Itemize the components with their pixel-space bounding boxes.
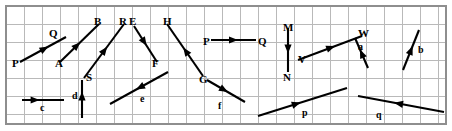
vector-diagram-svg [0, 0, 452, 131]
vector-label-q-tail: q [376, 110, 382, 120]
vector-GH [167, 24, 203, 76]
vector-label-AB-tail: A [55, 58, 63, 69]
vector-arrowhead [284, 45, 291, 54]
vector-label-EF-head: F [152, 58, 159, 69]
vector-label-MN-head: N [283, 72, 291, 83]
vector-arrowhead [229, 36, 238, 43]
vector-f [207, 80, 245, 102]
vector-arrowhead [39, 47, 49, 54]
vector-label-MN-tail: M [283, 22, 293, 33]
vector-group [20, 24, 444, 118]
vector-label-SR-tail: S [86, 72, 92, 83]
vector-arrowhead [218, 84, 228, 92]
vector-label-GH-head: H [163, 16, 172, 27]
vector-arrowhead [183, 47, 191, 56]
vector-label-p-tail: p [302, 108, 308, 118]
vector-d [78, 80, 85, 118]
grid-lines [6, 6, 446, 124]
vector-label-VW-head: W [358, 28, 369, 39]
vector-label-AB-head: B [94, 16, 101, 27]
vector-arrowhead [31, 96, 40, 103]
vector-diagram-canvas: PQABSREFGHPQMNVWabcdefpq [0, 0, 452, 131]
vector-label-f-tail: f [218, 101, 221, 111]
vector-label-e-tail: e [140, 94, 144, 104]
vector-label-EF-tail: E [129, 16, 136, 27]
vector-PQ2 [211, 36, 256, 43]
vector-label-PQ2-head: Q [258, 36, 267, 47]
vector-label-c-tail: c [40, 103, 44, 113]
vector-label-SR-head: R [119, 16, 127, 27]
vector-arrowhead [406, 46, 413, 56]
vector-arrowhead [136, 82, 146, 89]
vector-label-GH-tail: G [199, 74, 208, 85]
vector-e [110, 72, 168, 104]
vector-MN [284, 28, 291, 72]
vector-label-b-tail: b [418, 45, 424, 55]
vector-label-VW-tail: V [298, 54, 306, 65]
vector-arrowhead [291, 102, 301, 109]
vector-arrowhead [139, 36, 147, 46]
vector-q [358, 96, 444, 112]
vector-b [403, 30, 419, 70]
vector-label-d-tail: d [72, 91, 78, 101]
vector-AB [60, 24, 99, 62]
vector-label-PQ-tail: P [12, 58, 19, 69]
vector-arrowhead [394, 101, 404, 108]
vector-label-PQ-head: Q [49, 28, 58, 39]
vector-label-a-tail: a [358, 42, 363, 52]
vector-label-PQ2-tail: P [203, 36, 210, 47]
